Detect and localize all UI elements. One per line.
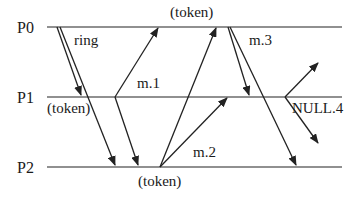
label-token-p1: (token) bbox=[47, 100, 90, 117]
process-label-p2: P2 bbox=[17, 159, 34, 176]
process-label-p0: P0 bbox=[17, 19, 34, 36]
label-m1: m.1 bbox=[137, 75, 160, 91]
label-ring: ring bbox=[74, 32, 99, 48]
arrow-m1-to-p2 bbox=[115, 97, 138, 165]
label-token-p0: (token) bbox=[170, 4, 213, 21]
process-label-p1: P1 bbox=[17, 89, 34, 106]
label-m2: m.2 bbox=[193, 144, 216, 160]
label-token-p2: (token) bbox=[138, 173, 181, 190]
arrow-null4-up bbox=[285, 63, 318, 97]
space-time-diagram: P0 P1 P2 ring m.1 m.2 m.3 NULL.4 (token)… bbox=[0, 0, 357, 197]
label-null4: NULL.4 bbox=[292, 100, 344, 116]
label-m3: m.3 bbox=[249, 32, 272, 48]
